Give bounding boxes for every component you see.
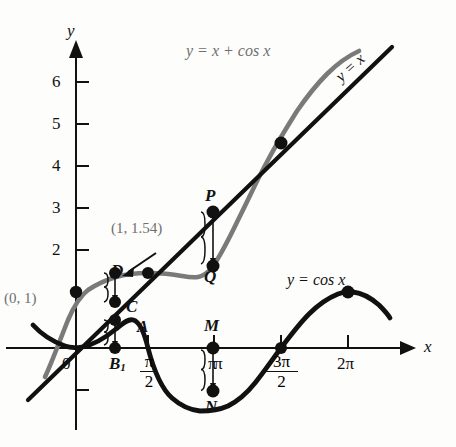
curve-label-cos-x: y = cos x: [287, 272, 345, 288]
x-tick-label-0: 0: [62, 355, 71, 372]
point-label-C: C: [126, 298, 137, 315]
pi-over-2-denominator: 2: [140, 371, 158, 391]
y-tick-label-6: 6: [52, 73, 61, 90]
curve-x-plus-cos-x: [45, 51, 359, 377]
x-tick-label-3pi-over-2: 3π 2: [265, 353, 298, 391]
brace-label-pi: π: [208, 355, 217, 372]
curve-label-x-plus-cos-x: y = x + cos x: [186, 43, 270, 59]
y-tick-label-3: 3: [52, 199, 61, 216]
point-label-A: A: [137, 318, 148, 335]
brace-DC: [104, 273, 108, 302]
annotation-arrow-head: [122, 267, 134, 277]
y-tick-label-2: 2: [52, 241, 61, 258]
y-tick-label-4: 4: [52, 157, 61, 174]
point-label-B1-letter: B: [109, 354, 120, 373]
x-tick-label-2pi: 2π: [337, 355, 354, 372]
point-label-Q: Q: [204, 268, 216, 285]
point-intersection-3pi-over-2: [275, 137, 288, 150]
annotation-point-0-1: (0, 1): [4, 291, 37, 306]
x-tick-label-pi-over-2: π 2: [140, 353, 158, 391]
x-axis-arrowhead: [400, 341, 416, 355]
y-axis-label: y: [67, 22, 75, 39]
point-label-N: N: [205, 398, 217, 415]
point-label-M: M: [204, 317, 219, 334]
y-axis-arrowhead: [69, 40, 83, 58]
annotation-point-1-154: (1, 1.54): [111, 221, 162, 236]
x-axis-label: x: [424, 338, 432, 355]
graph-figure: y x 6 5 4 3 2 0 π 2 π 3π 2 2π y = x + co…: [0, 0, 456, 447]
brace-PQ: [201, 212, 205, 264]
brace-MN: [201, 350, 205, 391]
x-axis-ticks: [148, 335, 348, 348]
point-label-B1: B1: [109, 355, 126, 373]
point-label-B1-subscript: 1: [120, 361, 126, 373]
pi-over-2-numerator: π: [140, 353, 158, 371]
point-intersection-pi-over-2: [142, 267, 154, 279]
three-pi-over-2-numerator: 3π: [265, 353, 298, 371]
plot-canvas: [0, 0, 456, 447]
point-label-D: D: [111, 262, 123, 279]
y-tick-label-5: 5: [52, 115, 61, 132]
point-label-P: P: [205, 187, 215, 204]
three-pi-over-2-denominator: 2: [265, 371, 298, 391]
point-0-1: [70, 286, 82, 298]
